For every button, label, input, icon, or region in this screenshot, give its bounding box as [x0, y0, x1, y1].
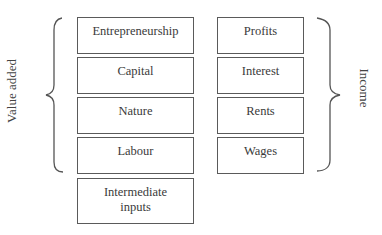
labour-box: Labour: [77, 137, 194, 174]
income-label: Income: [356, 69, 372, 108]
box-label: Interest: [218, 58, 303, 79]
interest-box: Interest: [217, 57, 304, 94]
left-brace-icon: [46, 18, 63, 172]
box-label: Capital: [78, 58, 193, 79]
intermediate-inputs-box: Intermediate inputs: [77, 178, 194, 224]
right-brace-icon: [317, 18, 340, 171]
box-label: Labour: [78, 138, 193, 159]
value-added-label: Value added: [4, 59, 20, 123]
nature-box: Nature: [77, 97, 194, 134]
box-label: Nature: [78, 98, 193, 119]
profits-box: Profits: [217, 17, 304, 54]
box-label: Wages: [218, 138, 303, 159]
box-label-line1: Intermediate: [78, 179, 193, 200]
box-label: Entrepreneurship: [78, 18, 193, 39]
capital-box: Capital: [77, 57, 194, 94]
box-label: Rents: [218, 98, 303, 119]
box-label-line2: inputs: [78, 200, 193, 215]
rents-box: Rents: [217, 97, 304, 134]
box-label: Profits: [218, 18, 303, 39]
entrepreneurship-box: Entrepreneurship: [77, 17, 194, 54]
wages-box: Wages: [217, 137, 304, 174]
